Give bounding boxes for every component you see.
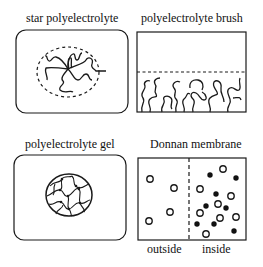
panel-frame: [16, 30, 128, 113]
open-ion: [167, 209, 173, 215]
open-ion: [215, 201, 221, 207]
panel-frame: [14, 155, 126, 240]
open-ion: [217, 215, 223, 221]
open-ion: [228, 193, 234, 199]
gel-crosslinks: [59, 178, 82, 211]
open-circle-ions: [146, 166, 239, 237]
filled-ion: [203, 203, 208, 208]
star-polymer-chains: [45, 53, 106, 92]
filled-ion: [207, 172, 212, 177]
diagram-canvas: [0, 0, 263, 267]
filled-ion: [213, 191, 218, 196]
open-ion: [197, 210, 203, 216]
brush-chains: [142, 78, 241, 112]
filled-ion: [233, 175, 238, 180]
open-ion: [233, 214, 239, 220]
polyelectrolyte-gel-panel: [14, 155, 126, 240]
open-ion: [220, 166, 226, 172]
open-ion: [197, 186, 203, 192]
open-ion: [171, 185, 177, 191]
filled-ion: [231, 228, 236, 233]
filled-ion: [194, 221, 199, 226]
star-polyelectrolyte-panel: [16, 30, 128, 113]
open-ion: [147, 176, 153, 182]
open-ion: [146, 218, 152, 224]
filled-ion: [211, 221, 216, 226]
polyelectrolyte-brush-panel: [137, 32, 246, 112]
donnan-membrane-panel: [138, 158, 246, 240]
open-ion: [203, 231, 209, 237]
filled-ion: [223, 205, 228, 210]
